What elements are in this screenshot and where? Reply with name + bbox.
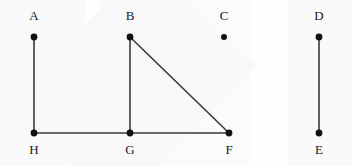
vertex-label-c: C <box>214 9 234 22</box>
vertices-layer <box>31 34 323 137</box>
vertex-label-a: A <box>24 9 44 22</box>
graph-vertex-e <box>316 130 323 137</box>
vertex-label-f: F <box>219 143 239 156</box>
vertex-label-h: H <box>24 143 44 156</box>
graph-diagram: ABCDEFGH <box>0 0 352 166</box>
graph-vertex-a <box>31 34 38 41</box>
graph-vertex-b <box>127 34 134 41</box>
vertex-label-g: G <box>120 143 140 156</box>
graph-edge-b-f <box>130 37 229 133</box>
edges-layer <box>34 37 319 133</box>
graph-canvas <box>0 0 352 166</box>
vertex-label-e: E <box>309 143 329 156</box>
graph-vertex-h <box>31 130 38 137</box>
graph-vertex-c <box>221 34 227 40</box>
vertex-label-b: B <box>120 9 140 22</box>
graph-vertex-d <box>316 34 323 41</box>
graph-vertex-g <box>127 130 134 137</box>
vertex-label-d: D <box>309 9 329 22</box>
graph-vertex-f <box>226 130 233 137</box>
